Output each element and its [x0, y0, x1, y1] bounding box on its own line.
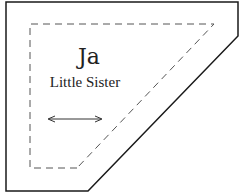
piece-label: Little Sister: [0, 74, 170, 91]
piece-name: Ja: [0, 44, 178, 69]
cut-line-outline: [6, 2, 238, 191]
pattern-piece-diagram: [0, 0, 244, 193]
